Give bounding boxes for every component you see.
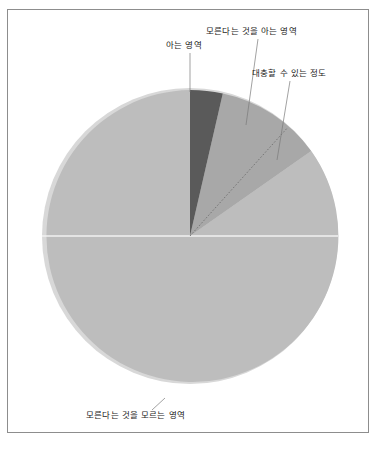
label-known-area: 아는 영역 xyxy=(166,41,202,50)
figure-container: 아는 영역 모른다는 것을 아는 영역 대충할 수 있는 정도 모른다는 것을 … xyxy=(0,0,378,458)
label-unknown-unknown-area: 모른다는 것을 모르는 영역 xyxy=(86,411,185,420)
leader-line-unknown-unknown xyxy=(152,398,165,410)
label-known-unknown-area: 모른다는 것을 아는 영역 xyxy=(206,27,297,36)
label-rough-capability: 대충할 수 있는 정도 xyxy=(252,69,326,78)
